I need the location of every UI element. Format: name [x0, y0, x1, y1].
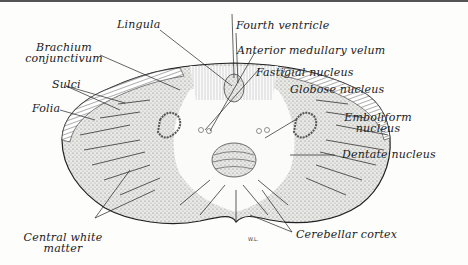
label-central-white-line2: matter	[12, 243, 114, 254]
label-anterior-medullary-velum: Anterior medullary velum	[237, 45, 385, 56]
label-folia: Folia	[32, 103, 60, 114]
label-dentate-nucleus: Dentate nucleus	[342, 149, 436, 160]
label-globose-nucleus: Globose nucleus	[290, 84, 384, 95]
label-cerebellar-cortex: Cerebellar cortex	[296, 229, 397, 240]
label-fastigial-nucleus: Fastigial nucleus	[256, 67, 354, 78]
label-sulci: Sulci	[52, 79, 81, 90]
label-brachium-line2: conjunctivum	[22, 53, 106, 64]
label-lingula: Lingula	[117, 19, 161, 30]
label-fourth-ventricle: Fourth ventricle	[236, 20, 329, 31]
artist-signature: W.L.	[248, 236, 258, 242]
figure-frame: Lingula Fourth ventricle Brachium conjun…	[0, 0, 468, 265]
label-emboliform-line2: nucleus	[335, 123, 421, 134]
